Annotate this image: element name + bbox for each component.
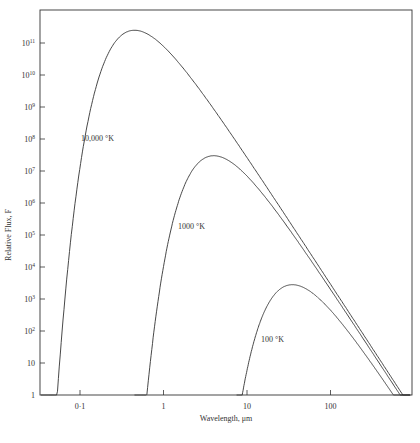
curve-label-1000K: 1000 °K <box>178 222 205 231</box>
y-tick-label: 108 <box>24 134 35 145</box>
curve-labels: 10,000 °K1000 °K100 °K <box>81 134 284 344</box>
y-tick-label: 105 <box>24 230 35 241</box>
y-tick-label: 104 <box>24 262 35 273</box>
x-tick-label: 100 <box>325 402 337 411</box>
blackbody-flux-chart: 11010210310410510610710810910101011 0·11… <box>0 0 420 443</box>
x-axis-ticks: 0·1110100 <box>75 390 337 411</box>
y-axis-ticks: 11010210310410510610710810910101011 <box>22 38 46 401</box>
curve-label-100K: 100 °K <box>261 335 284 344</box>
y-tick-label: 103 <box>24 294 35 305</box>
y-tick-label: 106 <box>24 198 35 209</box>
x-axis-title: Wavelength, μm <box>200 414 253 423</box>
y-tick-label: 1011 <box>22 38 36 49</box>
y-axis-title: Relative Flux, F <box>4 209 13 261</box>
y-tick-label: 1010 <box>22 70 36 81</box>
x-tick-label: 1 <box>162 402 166 411</box>
y-tick-label: 107 <box>24 166 35 177</box>
y-tick-label: 10 <box>27 359 35 368</box>
x-tick-label: 10 <box>243 402 251 411</box>
y-tick-label: 109 <box>24 102 35 113</box>
curves <box>41 30 410 395</box>
x-tick-label: 0·1 <box>75 402 86 411</box>
plot-frame <box>40 10 412 395</box>
y-tick-label: 1 <box>31 391 35 400</box>
curve-label-10000K: 10,000 °K <box>81 134 114 143</box>
y-tick-label: 102 <box>24 326 35 337</box>
